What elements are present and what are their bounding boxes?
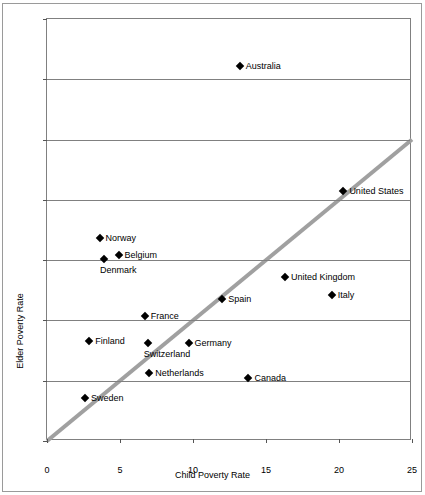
diamond-marker-icon bbox=[145, 369, 153, 377]
diamond-marker-icon bbox=[81, 393, 89, 401]
point-label: Spain bbox=[228, 294, 251, 304]
y-tick-mark-25 bbox=[43, 140, 47, 141]
diamond-marker-icon bbox=[281, 273, 289, 281]
point-label: Finland bbox=[95, 336, 125, 346]
point-label: Sweden bbox=[91, 393, 124, 403]
point-label: France bbox=[151, 311, 179, 321]
diamond-marker-icon bbox=[95, 234, 103, 242]
gridline-y-20 bbox=[47, 200, 410, 201]
gridline-y-10 bbox=[47, 320, 410, 321]
x-tick-mark-5 bbox=[120, 439, 121, 443]
plot-area: 051015202530350510152025AustraliaUnited … bbox=[46, 18, 411, 440]
y-tick-mark-20 bbox=[43, 200, 47, 201]
diamond-marker-icon bbox=[339, 187, 347, 195]
diamond-marker-icon bbox=[327, 291, 335, 299]
x-tick-mark-10 bbox=[193, 439, 194, 443]
diamond-marker-icon bbox=[235, 62, 243, 70]
y-axis-title: Elder Poverty Rate bbox=[15, 241, 25, 421]
diamond-marker-icon bbox=[85, 337, 93, 345]
gridline-y-5 bbox=[47, 381, 410, 382]
diamond-marker-icon bbox=[114, 251, 122, 259]
x-axis-title: Child Poverty Rate bbox=[0, 470, 425, 480]
y-tick-mark-5 bbox=[43, 381, 47, 382]
diamond-marker-icon bbox=[218, 294, 226, 302]
gridline-y-25 bbox=[47, 140, 410, 141]
point-label: Australia bbox=[246, 61, 281, 71]
y-tick-mark-35 bbox=[43, 19, 47, 20]
y-axis-title-wrap: Elder Poverty Rate bbox=[10, 130, 30, 330]
y-tick-mark-15 bbox=[43, 260, 47, 261]
x-tick-mark-0 bbox=[47, 439, 48, 443]
y-tick-mark-10 bbox=[43, 320, 47, 321]
diamond-marker-icon bbox=[141, 311, 149, 319]
y-tick-mark-30 bbox=[43, 79, 47, 80]
x-tick-mark-20 bbox=[339, 439, 340, 443]
x-tick-mark-15 bbox=[266, 439, 267, 443]
chart-figure: 051015202530350510152025AustraliaUnited … bbox=[0, 0, 425, 495]
point-label: Italy bbox=[338, 290, 355, 300]
point-label: Netherlands bbox=[155, 368, 204, 378]
equality-reference-line bbox=[47, 19, 412, 441]
point-label: Belgium bbox=[125, 250, 158, 260]
point-label: United Kingdom bbox=[291, 272, 355, 282]
diamond-marker-icon bbox=[143, 339, 151, 347]
point-label: Norway bbox=[106, 233, 137, 243]
point-label: Germany bbox=[195, 338, 232, 348]
gridline-y-30 bbox=[47, 79, 410, 80]
x-tick-mark-25 bbox=[412, 439, 413, 443]
point-label: Denmark bbox=[100, 265, 137, 275]
point-label: Canada bbox=[254, 373, 286, 383]
diamond-marker-icon bbox=[184, 339, 192, 347]
point-label: Switzerland bbox=[144, 349, 191, 359]
diamond-marker-icon bbox=[100, 255, 108, 263]
point-label: United States bbox=[349, 186, 403, 196]
